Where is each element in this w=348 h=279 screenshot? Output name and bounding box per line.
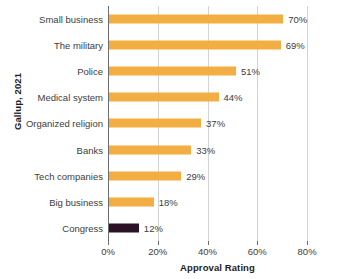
value-label: 51% [241, 66, 260, 77]
approval-rating-bar-chart: Gallup, 2021 Small business70%The milita… [0, 0, 348, 279]
category-label: Organized religion [26, 118, 103, 129]
category-label: Police [77, 66, 103, 77]
plot-area: Small business70%The military69%Police51… [108, 6, 327, 241]
category-label: Banks [77, 144, 103, 155]
x-axis-ticks: 0%20%40%60%80% [108, 241, 327, 257]
bar [109, 15, 283, 24]
category-label: Tech companies [34, 170, 103, 181]
value-label: 37% [206, 118, 225, 129]
value-label: 12% [144, 222, 163, 233]
value-label: 69% [286, 40, 305, 51]
x-tick-label: 20% [148, 246, 167, 257]
bar [109, 223, 139, 232]
x-axis-title: Approval Rating [108, 262, 327, 273]
bar [109, 93, 219, 102]
bar [109, 171, 181, 180]
bar [109, 145, 191, 154]
bar [109, 197, 154, 206]
x-tick-mark [208, 241, 209, 245]
x-tick-mark [307, 241, 308, 245]
bar-row: Small business70% [108, 6, 327, 32]
x-tick-label: 80% [298, 246, 317, 257]
value-label: 29% [186, 170, 205, 181]
category-label: The military [54, 40, 103, 51]
category-label: Big business [49, 196, 103, 207]
category-label: Medical system [38, 92, 103, 103]
bar-row: Banks33% [108, 137, 327, 163]
x-tick-label: 60% [248, 246, 267, 257]
bar [109, 119, 201, 128]
bar-row: Organized religion37% [108, 110, 327, 136]
x-tick-mark [158, 241, 159, 245]
x-tick-label: 0% [101, 246, 115, 257]
x-tick-mark [108, 241, 109, 245]
category-label: Small business [39, 14, 103, 25]
bar-row: Police51% [108, 58, 327, 84]
value-label: 33% [196, 144, 215, 155]
x-tick-label: 40% [198, 246, 217, 257]
bar-row: The military69% [108, 32, 327, 58]
category-label: Congress [62, 222, 103, 233]
x-tick-mark [257, 241, 258, 245]
y-axis-title: Gallup, 2021 [12, 47, 23, 157]
bar-row: Congress12% [108, 215, 327, 241]
bar [109, 67, 236, 76]
value-label: 44% [224, 92, 243, 103]
bar-row: Medical system44% [108, 84, 327, 110]
bar [109, 41, 281, 50]
value-label: 18% [159, 196, 178, 207]
value-label: 70% [288, 14, 307, 25]
bar-row: Tech companies29% [108, 163, 327, 189]
bar-row: Big business18% [108, 189, 327, 215]
